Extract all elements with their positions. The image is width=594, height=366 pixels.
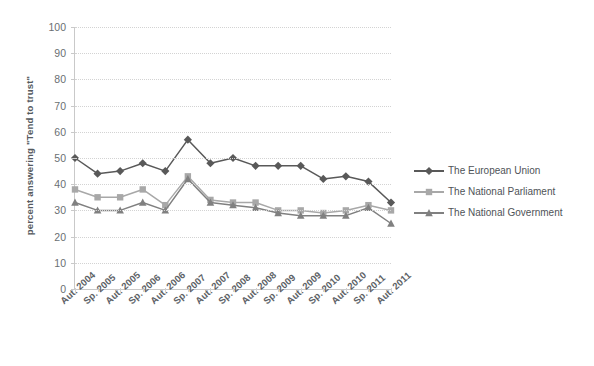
- y-axis-tick-mark: [71, 184, 75, 185]
- y-axis-tick-label: 60: [32, 126, 66, 138]
- y-axis-tick-mark: [71, 158, 75, 159]
- trust-line-chart: percent answering "Tend to trust" 010203…: [0, 0, 594, 366]
- y-axis-tick-mark: [71, 263, 75, 264]
- data-point-marker: [140, 186, 146, 192]
- y-axis-tick-mark: [71, 79, 75, 80]
- y-axis-tick-mark: [71, 132, 75, 133]
- data-point-marker: [426, 188, 432, 194]
- gridline: [75, 158, 391, 159]
- gridline: [75, 210, 391, 211]
- y-axis-tick-mark: [71, 106, 75, 107]
- data-point-marker: [387, 220, 395, 227]
- legend-item-2[interactable]: The National Parliament: [414, 181, 590, 202]
- gridline: [75, 106, 391, 107]
- chart-legend: The European UnionThe National Parliamen…: [414, 160, 590, 223]
- y-axis-tick-mark: [71, 53, 75, 54]
- data-point-marker: [117, 194, 123, 200]
- legend-item-1[interactable]: The European Union: [414, 160, 590, 181]
- y-axis-tick-mark: [71, 27, 75, 28]
- data-point-marker: [139, 159, 147, 167]
- data-point-marker: [116, 167, 124, 175]
- data-point-marker: [139, 199, 147, 206]
- data-point-marker: [425, 166, 433, 174]
- gridline: [75, 27, 391, 28]
- gridline: [75, 263, 391, 264]
- data-point-marker: [274, 162, 282, 170]
- y-axis-tick-label: 100: [32, 21, 66, 33]
- y-axis-tick-label: 50: [32, 152, 66, 164]
- y-axis-tick-label: 80: [32, 73, 66, 85]
- y-axis-tick-label: 90: [32, 47, 66, 59]
- y-axis-tick-label: 0: [32, 283, 66, 295]
- y-axis-tick-labels: 0102030405060708090100: [30, 0, 66, 366]
- legend-label: The European Union: [448, 165, 540, 176]
- gridline: [75, 53, 391, 54]
- data-point-marker: [425, 209, 433, 216]
- data-point-marker: [342, 172, 350, 180]
- gridline: [75, 79, 391, 80]
- y-axis-tick-mark: [71, 210, 75, 211]
- y-axis-tick-label: 30: [32, 204, 66, 216]
- legend-label: The National Parliament: [448, 186, 555, 197]
- x-axis-tick-labels: Aut. 2004Sp. 2005Aut. 2005Sp. 2006Aut. 2…: [74, 292, 404, 366]
- data-point-marker: [297, 162, 305, 170]
- data-point-marker: [71, 199, 79, 206]
- legend-marker-diamond-icon: [414, 165, 444, 177]
- y-axis-tick-label: 70: [32, 100, 66, 112]
- y-axis-tick-label: 20: [32, 231, 66, 243]
- legend-marker-square-icon: [414, 186, 444, 198]
- data-point-marker: [251, 162, 259, 170]
- data-point-marker: [72, 186, 78, 192]
- legend-label: The National Government: [448, 207, 563, 218]
- legend-marker-triangle-icon: [414, 207, 444, 219]
- y-axis-tick-label: 40: [32, 178, 66, 190]
- gridline: [75, 132, 391, 133]
- y-axis-tick-label: 10: [32, 257, 66, 269]
- legend-item-3[interactable]: The National Government: [414, 202, 590, 223]
- gridline: [75, 237, 391, 238]
- plot-area: [74, 27, 391, 290]
- data-point-marker: [319, 175, 327, 183]
- gridline: [75, 184, 391, 185]
- data-point-marker: [94, 194, 100, 200]
- y-axis-tick-mark: [71, 237, 75, 238]
